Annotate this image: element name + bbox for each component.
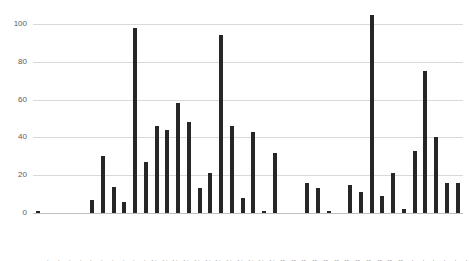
bar[interactable] [101,156,105,213]
y-tick-label: 40 [2,133,27,141]
bar[interactable] [133,28,137,213]
bar[interactable] [219,35,223,213]
bar[interactable] [380,196,384,213]
bar[interactable] [445,183,449,213]
bar[interactable] [305,183,309,213]
bar[interactable] [176,103,180,213]
y-tick-label: 20 [2,171,27,179]
bar[interactable] [198,188,202,213]
gridline-0 [33,213,463,214]
bar-chart: 020406080100 Mar-41Apr-41May-41Jun-41Jul… [0,0,469,261]
bar[interactable] [456,183,460,213]
y-tick-label: 100 [2,20,27,28]
bar[interactable] [434,137,438,213]
bar[interactable] [327,211,331,213]
y-tick-label: 60 [2,96,27,104]
bar[interactable] [359,192,363,213]
bar[interactable] [273,153,277,213]
bar[interactable] [251,132,255,213]
bar[interactable] [391,173,395,213]
bar[interactable] [316,188,320,213]
bar[interactable] [370,15,374,213]
bar[interactable] [144,162,148,213]
bar[interactable] [90,200,94,213]
bar[interactable] [241,198,245,213]
bar[interactable] [262,211,266,213]
y-tick-label: 0 [2,209,27,217]
y-tick-label: 80 [2,58,27,66]
bar[interactable] [165,130,169,213]
bar[interactable] [36,211,40,213]
bar[interactable] [208,173,212,213]
bar[interactable] [155,126,159,213]
bar[interactable] [230,126,234,213]
bar[interactable] [122,202,126,213]
bar[interactable] [402,209,406,213]
bar[interactable] [112,187,116,213]
bar[interactable] [187,122,191,213]
bar-series [33,10,463,213]
bar[interactable] [423,71,427,213]
bar[interactable] [348,185,352,213]
x-axis: Mar-41Apr-41May-41Jun-41Jul-41Aug-41Sep-… [33,216,463,261]
bar[interactable] [413,151,417,213]
